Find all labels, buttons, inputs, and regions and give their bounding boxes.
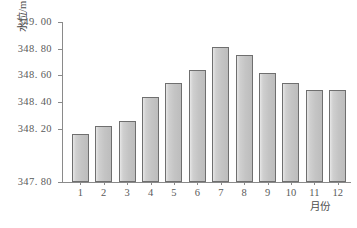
bar xyxy=(95,126,112,182)
x-axis-tick-label: 6 xyxy=(187,186,207,199)
y-axis-tick-label: 348. 60 xyxy=(18,68,52,82)
x-axis-tick xyxy=(338,182,339,185)
bar xyxy=(212,47,229,182)
x-axis-title: 月份 xyxy=(310,198,330,213)
y-axis-tick-label: 347. 80 xyxy=(18,175,52,189)
x-axis-tick-label: 4 xyxy=(141,186,161,199)
y-axis-tick: 348. 60 xyxy=(58,75,62,76)
y-axis-tick-label: 348. 80 xyxy=(18,42,52,56)
bar xyxy=(119,121,136,182)
x-axis-tick-label: 2 xyxy=(94,186,114,199)
y-axis-tick-label: 348. 20 xyxy=(18,122,52,136)
x-axis-tick xyxy=(314,182,315,185)
bar xyxy=(306,90,323,182)
y-axis-tick: 348. 20 xyxy=(58,129,62,130)
bar xyxy=(236,55,253,182)
x-axis-tick-label: 3 xyxy=(117,186,137,199)
x-axis-tick-label: 8 xyxy=(234,186,254,199)
y-axis-tick: 348. 40 xyxy=(58,102,62,103)
bar xyxy=(259,73,276,182)
x-axis-tick xyxy=(197,182,198,185)
plot-area: 349. 00348. 80348. 60348. 40348. 20347. … xyxy=(62,22,350,182)
y-axis-tick-label: 349. 00 xyxy=(18,15,52,29)
x-axis-tick-label: 5 xyxy=(164,186,184,199)
x-axis-tick xyxy=(80,182,81,185)
y-axis-tick: 349. 00 xyxy=(58,22,62,23)
bar xyxy=(72,134,89,182)
x-axis-tick-label: 9 xyxy=(258,186,278,199)
bar-chart: 水位/m 349. 00348. 80348. 60348. 40348. 20… xyxy=(0,0,357,228)
bar xyxy=(189,70,206,182)
x-axis-tick xyxy=(151,182,152,185)
y-axis-tick: 348. 80 xyxy=(58,49,62,50)
x-axis-tick xyxy=(221,182,222,185)
x-axis-tick xyxy=(244,182,245,185)
bar xyxy=(165,83,182,182)
bar xyxy=(282,83,299,182)
x-axis-tick-label: 12 xyxy=(328,186,348,199)
y-axis-tick: 347. 80 xyxy=(58,182,62,183)
y-axis-tick-label: 348. 40 xyxy=(18,95,52,109)
x-axis-tick-label: 10 xyxy=(281,186,301,199)
x-axis-tick xyxy=(174,182,175,185)
bar xyxy=(142,97,159,182)
x-axis-tick-label: 7 xyxy=(211,186,231,199)
x-axis-tick xyxy=(268,182,269,185)
x-axis-tick xyxy=(127,182,128,185)
x-axis-tick xyxy=(104,182,105,185)
x-axis-tick xyxy=(291,182,292,185)
x-axis-line xyxy=(62,182,351,183)
bar xyxy=(329,90,346,182)
x-axis-tick-label: 1 xyxy=(70,186,90,199)
